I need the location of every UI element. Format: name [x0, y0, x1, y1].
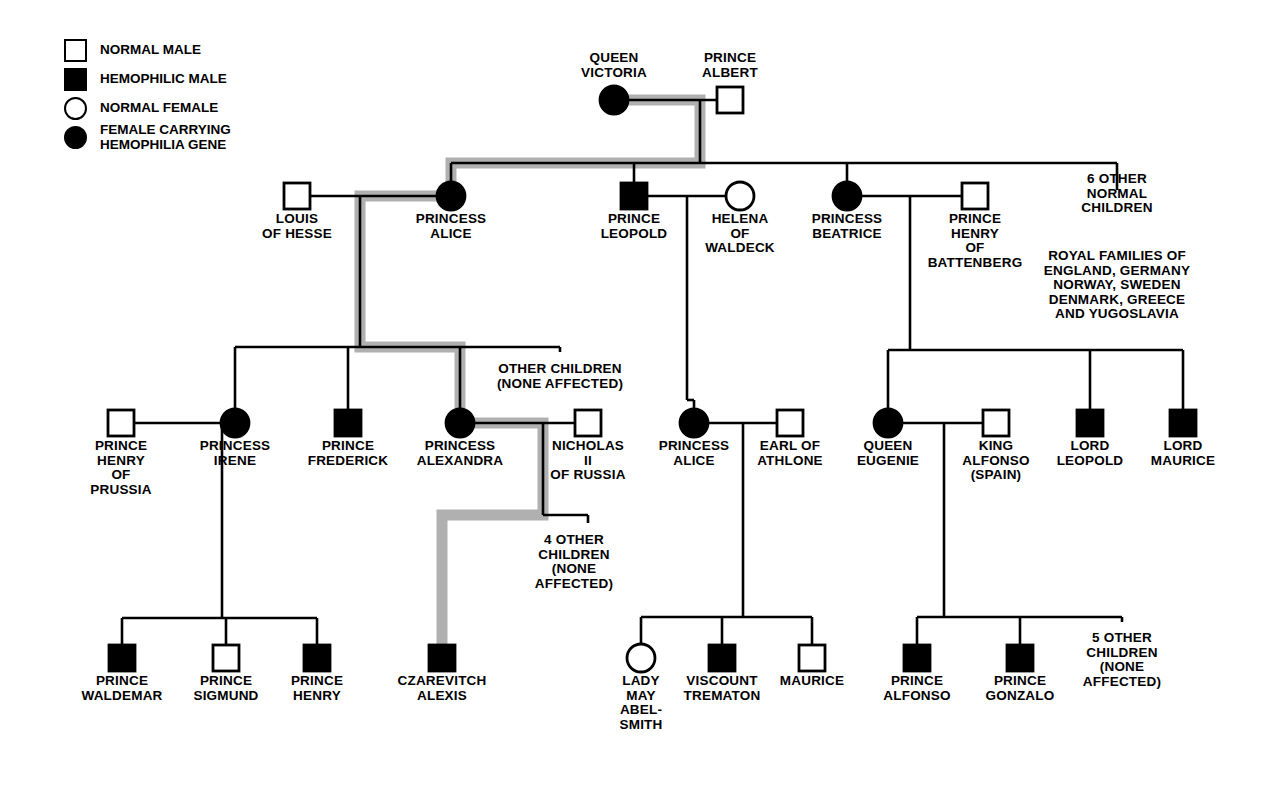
- pedigree-symbol-beatrice[interactable]: [833, 182, 861, 210]
- label-nicholas: NICHOLAS II OF RUSSIA: [550, 439, 625, 483]
- pedigree-symbol-sigmund[interactable]: [213, 645, 239, 671]
- pedigree-symbol-henry4[interactable]: [304, 645, 330, 671]
- label-louis: LOUIS OF HESSE: [262, 212, 332, 241]
- label-victoria: QUEEN VICTORIA: [581, 51, 647, 80]
- label-ladymay: LADY MAY ABEL- SMITH: [620, 674, 663, 732]
- pedigree-symbol-alexandra[interactable]: [446, 409, 474, 437]
- pedigree-symbol-irene[interactable]: [221, 409, 249, 437]
- label-beatrice: PRINCESS BEATRICE: [812, 212, 883, 241]
- pedigree-chart: NORMAL MALE HEMOPHILIC MALE NORMAL FEMAL…: [0, 0, 1267, 793]
- pedigree-symbol-alfonso[interactable]: [904, 645, 930, 671]
- connector-line-layer: [122, 100, 1183, 645]
- pedigree-symbol-albert[interactable]: [717, 87, 743, 113]
- pedigree-symbol-henrypru[interactable]: [108, 410, 134, 436]
- annotation-other-children: OTHER CHILDREN (NONE AFFECTED): [497, 362, 623, 391]
- label-maurice4: MAURICE: [780, 674, 844, 689]
- label-trematon: VISCOUNT TREMATON: [684, 674, 761, 703]
- annotation-royal-families: ROYAL FAMILIES OF ENGLAND, GERMANY NORWA…: [1044, 249, 1190, 322]
- label-gonzalo: PRINCE GONZALO: [986, 674, 1055, 703]
- pedigree-symbol-victoria[interactable]: [600, 86, 628, 114]
- label-henrybatt: PRINCE HENRY OF BATTENBERG: [928, 212, 1023, 270]
- label-henry4: PRINCE HENRY: [291, 674, 343, 703]
- pedigree-symbol-waldemar[interactable]: [109, 645, 135, 671]
- label-alfonso13: KING ALFONSO (SPAIN): [962, 439, 1029, 483]
- label-alice1: PRINCESS ALICE: [416, 212, 487, 241]
- pedigree-symbol-nicholas[interactable]: [575, 410, 601, 436]
- label-alfonso: PRINCE ALFONSO: [883, 674, 950, 703]
- label-alexis: CZAREVITCH ALEXIS: [398, 674, 487, 703]
- pedigree-symbol-gonzalo[interactable]: [1007, 645, 1033, 671]
- pedigree-symbol-alice2[interactable]: [680, 409, 708, 437]
- label-athlone: EARL OF ATHLONE: [757, 439, 823, 468]
- label-helena: HELENA OF WALDECK: [705, 212, 775, 256]
- pedigree-symbol-henrybatt[interactable]: [962, 183, 988, 209]
- pedigree-symbol-louis[interactable]: [284, 183, 310, 209]
- pedigree-symbol-leopold[interactable]: [621, 183, 647, 209]
- pedigree-symbol-eugenie[interactable]: [874, 409, 902, 437]
- annotation-five-other: 5 OTHER CHILDREN (NONE AFFECTED): [1083, 631, 1161, 689]
- label-henrypru: PRINCE HENRY OF PRUSSIA: [90, 439, 151, 497]
- pedigree-symbol-alfonso13[interactable]: [983, 410, 1009, 436]
- annotation-four-other: 4 OTHER CHILDREN (NONE AFFECTED): [535, 533, 613, 591]
- label-frederick: PRINCE FREDERICK: [308, 439, 389, 468]
- label-eugenie: QUEEN EUGENIE: [857, 439, 919, 468]
- label-lordleo: LORD LEOPOLD: [1057, 439, 1124, 468]
- symbol-layer: [108, 86, 1196, 672]
- pedigree-symbol-lordleo[interactable]: [1077, 410, 1103, 436]
- highlight-path-victoria-to-alice: [451, 100, 700, 182]
- pedigree-symbol-lordmau[interactable]: [1170, 410, 1196, 436]
- label-alice2: PRINCESS ALICE: [659, 439, 730, 468]
- pedigree-symbol-alice1[interactable]: [437, 182, 465, 210]
- annotation-six-other: 6 OTHER NORMAL CHILDREN: [1081, 172, 1152, 216]
- label-lordmau: LORD MAURICE: [1151, 439, 1215, 468]
- pedigree-symbol-helena[interactable]: [726, 182, 754, 210]
- pedigree-symbol-trematon[interactable]: [709, 645, 735, 671]
- label-leopold: PRINCE LEOPOLD: [601, 212, 668, 241]
- label-waldemar: PRINCE WALDEMAR: [81, 674, 162, 703]
- label-albert: PRINCE ALBERT: [702, 51, 758, 80]
- pedigree-symbol-frederick[interactable]: [335, 410, 361, 436]
- label-sigmund: PRINCE SIGMUND: [193, 674, 258, 703]
- pedigree-symbol-alexis[interactable]: [429, 645, 455, 671]
- pedigree-symbol-ladymay[interactable]: [627, 644, 655, 672]
- label-irene: PRINCESS IRENE: [200, 439, 271, 468]
- pedigree-symbol-athlone[interactable]: [777, 410, 803, 436]
- pedigree-symbol-maurice4[interactable]: [799, 645, 825, 671]
- label-alexandra: PRINCESS ALEXANDRA: [417, 439, 504, 468]
